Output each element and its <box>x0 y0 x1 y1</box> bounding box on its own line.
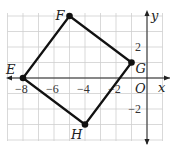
origin-label: O <box>135 81 146 96</box>
x-tick-label: −8 <box>15 82 28 96</box>
vertex-g-dot <box>128 59 135 66</box>
x-tick-label: −6 <box>46 82 59 96</box>
quadrilateral-efgh <box>23 16 132 125</box>
vertex-e-dot <box>20 75 27 82</box>
x-tick-label: −4 <box>77 82 90 96</box>
vertex-f-dot <box>66 13 73 20</box>
vertex-e-label: E <box>5 62 16 77</box>
vertex-f-label: F <box>55 8 66 23</box>
y-axis-down-arrow-icon <box>145 139 150 145</box>
y-tick-label: −2 <box>128 102 141 116</box>
x-axis-label: x <box>158 80 166 95</box>
y-axis-label: y <box>150 8 159 23</box>
y-axis-arrow-icon <box>145 10 150 16</box>
vertex-h-label: H <box>70 127 83 142</box>
coordinate-plane: x y O −8−6−4−22−2 EFGH <box>0 0 174 147</box>
vertex-h-dot <box>82 121 89 128</box>
y-tick-label: 2 <box>135 40 141 54</box>
vertex-g-label: G <box>136 61 146 76</box>
